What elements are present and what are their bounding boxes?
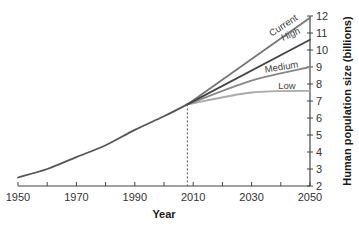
series-lines [18,18,310,178]
y-tick-label: 8 [316,78,322,90]
y-tick-label: 2 [316,180,322,192]
y-tick-label: 12 [316,10,328,22]
y-tick-label: 4 [316,146,322,158]
x-tick-label: 1990 [123,191,147,203]
y-tick-label: 7 [316,95,322,107]
series-label-low: Low [278,80,296,91]
y-tick-label: 6 [316,112,322,124]
series-line-high [187,40,310,105]
x-tick-label: 2050 [298,191,322,203]
x-tick-label: 2010 [181,191,205,203]
y-axis-title: Human population size (billions) [341,16,353,186]
x-axis: 195019701990201020302050 [6,182,322,203]
x-tick-label: 1950 [6,191,30,203]
y-axis: 23456789101112 [307,10,328,192]
series-line-historical [18,104,187,177]
population-chart: 195019701990201020302050 23456789101112 … [0,0,359,229]
x-axis-title: Year [152,208,176,220]
y-tick-label: 3 [316,163,322,175]
y-tick-label: 11 [316,27,327,39]
series-labels: CurrentHighMediumLow [264,12,302,91]
y-tick-label: 9 [316,61,322,73]
x-tick-label: 2030 [239,191,263,203]
y-tick-label: 5 [316,129,322,141]
x-tick-label: 1970 [64,191,88,203]
y-tick-label: 10 [316,44,328,56]
